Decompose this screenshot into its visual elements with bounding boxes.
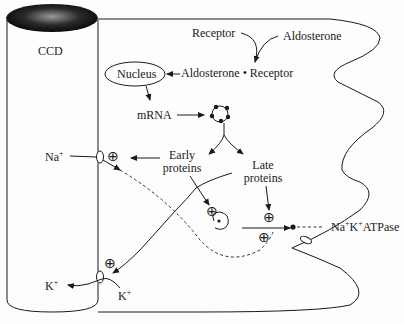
late-proteins-line2: proteins [240,172,286,185]
stimulation-icon-k-channel: ⊕ [104,257,116,270]
na-ion-text: Na [45,150,59,164]
late-proteins-label: Late proteins [240,159,286,185]
late-to-pump-arrow [266,186,269,210]
aldosterone-label: Aldosterone [283,30,342,43]
ribosome-cluster [210,105,230,123]
pump-k-text: K [350,220,359,234]
k-ion-cell-label: K+ [118,290,131,303]
pump-atpase-text: ATPase [363,220,400,234]
nucleus-to-mrna-arrow [146,86,150,100]
k-ion-lumen-label: K+ [45,280,58,293]
na-charge: + [59,149,64,158]
early-to-metabolic-arrow [190,176,209,205]
k-cell-charge: + [127,288,132,297]
stimulation-icon-na-channel: ⊕ [107,150,119,163]
na-channel [97,151,104,163]
stimulation-icon-metabolic: ⊕ [206,205,218,218]
tubule-lumen-opening [6,4,98,32]
k-lumen-charge: + [54,278,59,287]
to-late-proteins-arrow [224,135,243,154]
receptor-arrow [241,33,257,62]
aldosterone-diagram: CCD Receptor Aldosterone Aldosterone • R… [0,0,404,324]
early-proteins-label: Early proteins [161,149,203,175]
nucleus-label: Nucleus [117,68,156,81]
receptor-label: Receptor [192,27,235,40]
aldosterone-arrow [255,36,278,62]
na-ion-label: Na+ [45,151,64,164]
k-cell-text: K [118,289,127,303]
na-k-atpase-label: Na+K+ATPase [331,221,399,234]
pump-na-text: Na [331,220,345,234]
na-entry-line [70,156,96,157]
k-secretion-arrow [68,278,120,288]
mrna-label: mRNA [137,109,172,122]
to-early-proteins-arrow [209,123,224,154]
k-lumen-text: K [45,279,54,293]
stimulation-icon-pump-late: ⊕ [263,211,275,224]
stimulation-icon-pump-na: ⊕ [258,231,270,244]
na-k-atpase-pump [290,224,295,229]
late-to-k-channel-arrow [113,173,232,273]
complex-label: Aldosterone • Receptor [181,67,293,80]
k-channel [97,271,104,283]
tubule-label: CCD [38,45,63,58]
early-proteins-line2: proteins [161,162,203,175]
